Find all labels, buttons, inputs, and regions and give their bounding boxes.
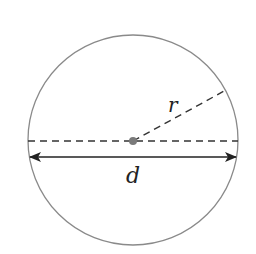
diameter-label: d [126, 163, 140, 188]
diagram-svg: r d [0, 0, 256, 254]
circle-diagram: r d [0, 0, 256, 254]
radius-dashed-line [133, 90, 226, 141]
center-point [129, 137, 137, 145]
radius-label: r [168, 93, 179, 117]
